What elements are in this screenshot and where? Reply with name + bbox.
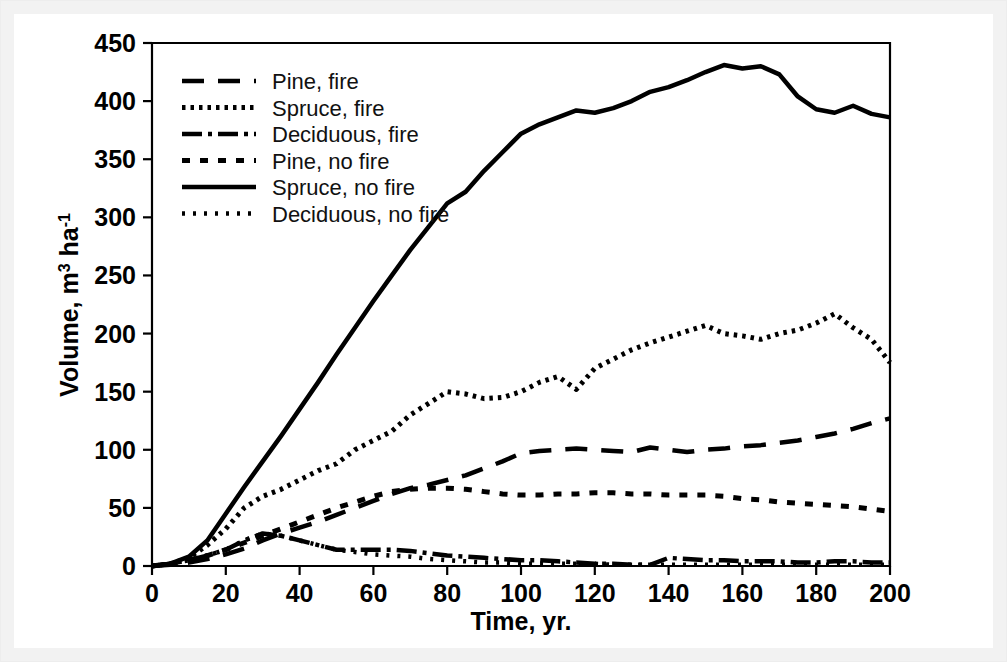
y-axis: 050100150200250300350400450: [94, 29, 152, 580]
y-axis-title-exponent-neg1: -1: [56, 213, 73, 227]
y-tick-label-250: 250: [94, 261, 136, 289]
x-tick-label-180: 180: [795, 579, 837, 607]
axis-box: [152, 43, 890, 566]
plot-axes: [152, 43, 890, 566]
x-axis: 020406080100120140160180200: [145, 566, 911, 607]
legend-label-deciduous-fire: Deciduous, fire: [272, 122, 419, 147]
y-tick-label-150: 150: [94, 378, 136, 406]
y-tick-label-400: 400: [94, 87, 136, 115]
y-tick-label-450: 450: [94, 29, 136, 57]
x-tick-label-160: 160: [722, 579, 764, 607]
legend-label-spruce-no-fire: Spruce, no fire: [272, 175, 415, 200]
y-tick-label-300: 300: [94, 203, 136, 231]
x-tick-label-200: 200: [869, 579, 911, 607]
line-chart-svg: 050100150200250300350400450 020406080100…: [0, 0, 1007, 662]
x-tick-label-20: 20: [212, 579, 240, 607]
figure-root: 050100150200250300350400450 020406080100…: [0, 0, 1007, 662]
y-tick-label-50: 50: [108, 494, 136, 522]
x-tick-label-60: 60: [359, 579, 387, 607]
x-tick-label-80: 80: [433, 579, 461, 607]
legend-label-spruce-fire: Spruce, fire: [272, 96, 385, 121]
series-line-spruce-no-fire: [152, 65, 890, 566]
x-axis-title: Time, yr.: [471, 607, 572, 635]
y-axis-title-main: Volume, m: [55, 272, 83, 397]
data-series-group: [152, 65, 890, 566]
chart-figure: 050100150200250300350400450 020406080100…: [0, 0, 1007, 662]
y-axis-title-mid: ha: [55, 226, 83, 263]
x-tick-label-120: 120: [574, 579, 616, 607]
legend-label-pine-no-fire: Pine, no fire: [272, 149, 389, 174]
y-tick-label-0: 0: [122, 552, 136, 580]
series-line-pine-fire: [152, 418, 890, 566]
x-tick-label-100: 100: [500, 579, 542, 607]
x-tick-label-40: 40: [286, 579, 314, 607]
legend-label-pine-fire: Pine, fire: [272, 69, 359, 94]
y-axis-title: Volume, m3 ha-1: [55, 213, 83, 397]
y-tick-label-350: 350: [94, 145, 136, 173]
y-tick-label-200: 200: [94, 320, 136, 348]
y-axis-title-exponent-3: 3: [56, 263, 73, 272]
series-line-pine-no-fire: [152, 488, 890, 566]
series-line-spruce-fire: [152, 314, 890, 566]
chart-legend: Pine, fireSpruce, fireDeciduous, firePin…: [182, 69, 449, 227]
legend-label-deciduous-no-fire: Deciduous, no fire: [272, 202, 449, 227]
y-tick-label-100: 100: [94, 436, 136, 464]
x-tick-label-0: 0: [145, 579, 159, 607]
x-tick-label-140: 140: [648, 579, 690, 607]
